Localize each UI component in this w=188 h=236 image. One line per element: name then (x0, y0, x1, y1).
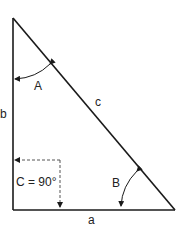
side-b-label: b (0, 108, 7, 120)
side-c-label: c (95, 96, 101, 108)
side-a-label: a (88, 214, 95, 226)
triangle-diagram (0, 0, 188, 236)
angle-a-label: A (34, 80, 42, 92)
angle-c-label: C = 90° (16, 176, 57, 188)
angle-b-label: B (112, 177, 120, 189)
angle-b-arc (121, 171, 137, 206)
angle-a-arc (15, 64, 50, 79)
